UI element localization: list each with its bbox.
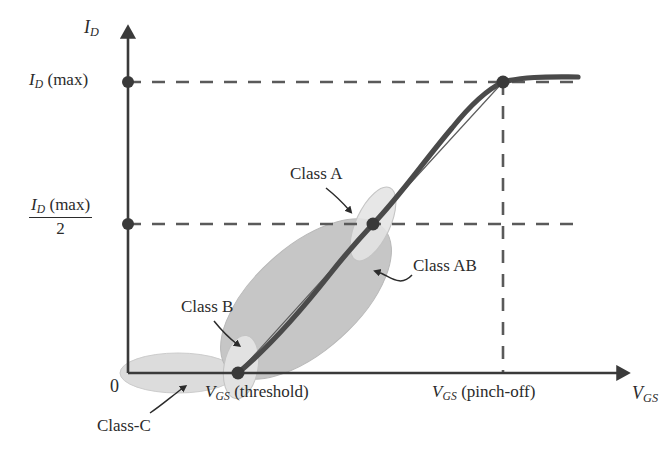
region-label-class-a: Class A xyxy=(290,165,342,182)
id-max-subscript: D xyxy=(35,78,44,91)
vgs-pinchoff-suffix: (pinch-off) xyxy=(461,382,535,401)
vgs-threshold-subscript: GS xyxy=(215,390,230,403)
figure-canvas xyxy=(0,0,671,455)
x-tick-label-vgs-pinchoff: VGS (pinch-off) xyxy=(432,383,535,403)
y-axis-label: ID xyxy=(84,18,99,39)
y-tick-label-id-max-half: ID (max) 2 xyxy=(29,196,92,237)
id-half-suffix: (max) xyxy=(49,195,90,214)
y-axis-subscript: D xyxy=(90,25,99,39)
pinchoff-dot xyxy=(497,76,510,89)
y-tick-label-id-max: ID (max) xyxy=(29,71,88,91)
id-half-axis-dot xyxy=(122,218,134,230)
vgs-threshold-symbol: V xyxy=(205,382,215,401)
threshold-dot xyxy=(232,367,245,380)
fraction-bar xyxy=(29,217,92,219)
region-label-class-c: Class-C xyxy=(97,417,151,434)
origin-label: 0 xyxy=(110,377,119,395)
id-half-subscript: D xyxy=(37,203,46,216)
midpoint-dot xyxy=(367,218,380,231)
id-max-half-fraction: ID (max) 2 xyxy=(29,196,92,237)
id-max-half-numerator: ID (max) xyxy=(29,196,92,217)
region-label-class-b: Class B xyxy=(181,298,233,315)
jfet-amplifier-class-figure: ID VGS ID (max) ID (max) 2 0 VGS (thresh… xyxy=(0,0,671,455)
x-tick-label-vgs-threshold: VGS (threshold) xyxy=(205,383,309,403)
region-label-class-ab: Class AB xyxy=(413,257,477,274)
id-max-axis-dot xyxy=(122,76,134,88)
id-max-suffix: (max) xyxy=(47,70,88,89)
x-axis-symbol: V xyxy=(632,383,643,403)
vgs-pinchoff-symbol: V xyxy=(432,382,442,401)
x-axis-label: VGS xyxy=(632,384,658,405)
id-max-half-denominator: 2 xyxy=(29,219,92,237)
class-a-pointer-arrow xyxy=(326,188,349,210)
x-axis-subscript: GS xyxy=(643,391,658,405)
vgs-pinchoff-subscript: GS xyxy=(442,390,457,403)
vgs-threshold-suffix: (threshold) xyxy=(234,382,309,401)
